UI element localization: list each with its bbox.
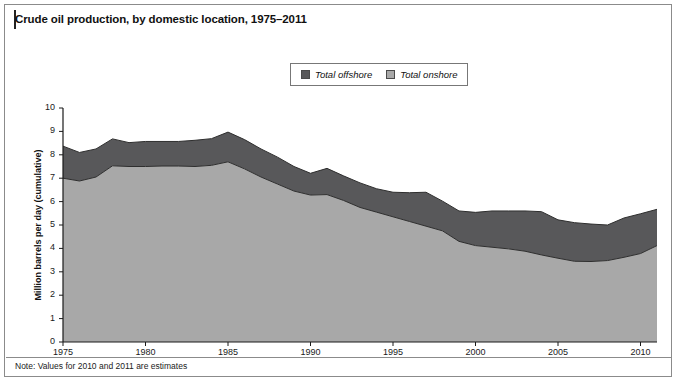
x-tick-label: 1995 [376,347,410,357]
x-tick-label: 2005 [541,347,575,357]
y-tick-label: 3 [39,266,55,276]
x-tick-label: 2000 [459,347,493,357]
area-chart-canvas [5,5,673,378]
x-tick-label: 1990 [294,347,328,357]
y-tick-label: 2 [39,289,55,299]
y-tick-label: 1 [39,313,55,323]
figure-frame: Crude oil production, by domestic locati… [4,4,672,377]
y-tick-label: 10 [39,102,55,112]
y-tick-label: 0 [39,336,55,346]
y-tick-label: 6 [39,196,55,206]
note-divider [6,357,672,358]
plot-area: Million barrels per day (cumulative) 109… [5,5,673,378]
figure-note: Note: Values for 2010 and 2011 are estim… [15,361,187,371]
x-tick-label: 1980 [129,347,163,357]
y-tick-label: 8 [39,149,55,159]
x-tick-label: 1985 [211,347,245,357]
y-tick-label: 9 [39,125,55,135]
y-tick-label: 7 [39,172,55,182]
y-tick-label: 5 [39,219,55,229]
y-tick-label: 4 [39,242,55,252]
x-tick-label: 2010 [624,347,658,357]
x-tick-label: 1975 [46,347,80,357]
